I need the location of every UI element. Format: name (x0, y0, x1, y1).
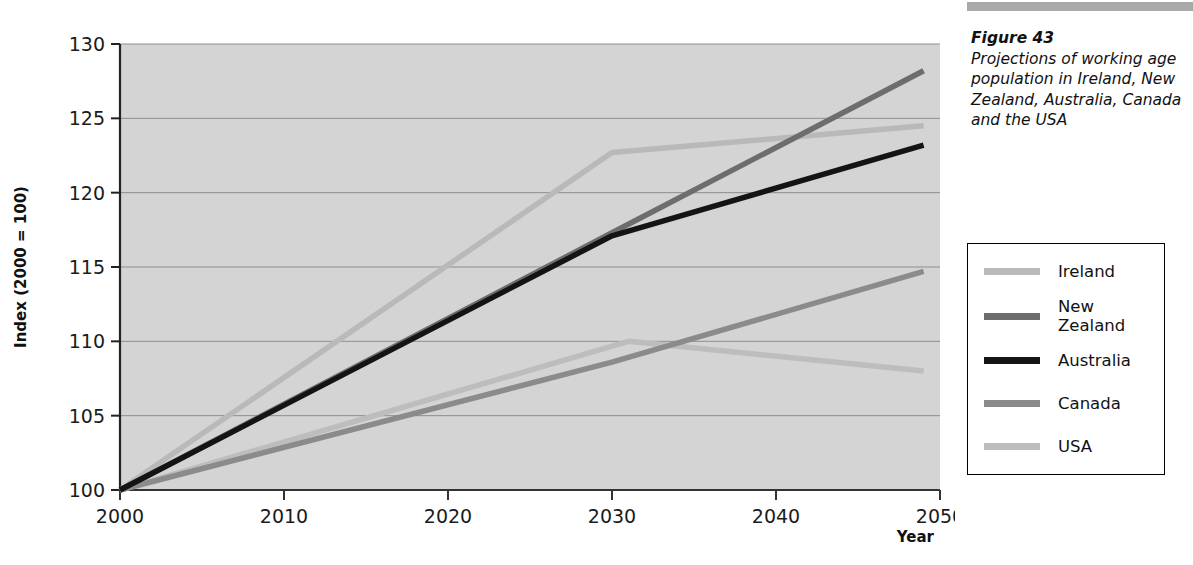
chart-legend: IrelandNew ZealandAustraliaCanadaUSA (967, 243, 1165, 475)
x-axis-tick-label: 2010 (260, 505, 308, 527)
y-axis-tick-label: 105 (69, 405, 105, 427)
x-axis-tick-labels: 200020102020203020402050 (96, 505, 955, 527)
legend-swatch-icon (984, 400, 1040, 407)
y-axis-tick-label: 130 (69, 33, 105, 55)
legend-item-label: Canada (1058, 394, 1121, 413)
x-axis-tick-label: 2040 (752, 505, 800, 527)
figure-caption: Figure 43 Projections of working age pop… (971, 28, 1186, 131)
x-axis-tick-label: 2020 (424, 505, 472, 527)
x-axis-tick-label: 2030 (588, 505, 636, 527)
x-axis-tick-label: 2000 (96, 505, 144, 527)
legend-item-label: Australia (1058, 351, 1131, 370)
line-chart: 100105110115120125130 200020102020203020… (0, 0, 955, 565)
x-axis-tick-label: 2050 (916, 505, 955, 527)
legend-swatch-icon (984, 357, 1040, 364)
y-axis-tick-label: 100 (69, 479, 105, 501)
figure-container: 100105110115120125130 200020102020203020… (0, 0, 1193, 565)
legend-item[interactable]: Canada (968, 387, 1164, 421)
legend-item[interactable]: Ireland (968, 254, 1164, 288)
chart-panel: 100105110115120125130 200020102020203020… (0, 0, 955, 565)
legend-item-label: New Zealand (1058, 297, 1125, 335)
legend-item-list: IrelandNew ZealandAustraliaCanadaUSA (968, 244, 1164, 474)
legend-item-label: USA (1058, 437, 1092, 456)
y-axis-tick-labels: 100105110115120125130 (69, 33, 105, 501)
legend-swatch-icon (984, 268, 1040, 275)
legend-swatch-icon (984, 443, 1040, 450)
x-axis-ticks (120, 490, 940, 500)
y-axis-tick-label: 115 (69, 256, 105, 278)
legend-item[interactable]: New Zealand (968, 297, 1164, 335)
y-axis-tick-label: 110 (69, 330, 105, 352)
y-axis-tick-label: 120 (69, 182, 105, 204)
legend-item[interactable]: Australia (968, 344, 1164, 378)
x-axis-title: Year (896, 528, 935, 546)
figure-caption-text: Projections of working age population in… (971, 49, 1186, 131)
legend-item[interactable]: USA (968, 430, 1164, 464)
legend-item-label: Ireland (1058, 262, 1115, 281)
y-axis-ticks (111, 44, 120, 490)
y-axis-title: Index (2000 = 100) (12, 186, 30, 348)
legend-swatch-icon (984, 313, 1040, 320)
figure-caption-title: Figure 43 (971, 28, 1186, 49)
y-axis-tick-label: 125 (69, 107, 105, 129)
top-rule-bar (967, 2, 1193, 11)
